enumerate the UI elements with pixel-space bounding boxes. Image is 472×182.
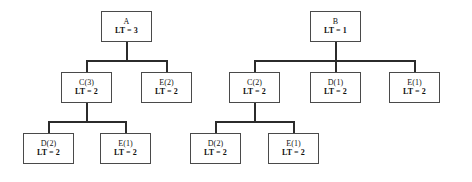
edge-b-e1-drop xyxy=(414,60,416,72)
edge-a-e2-drop xyxy=(166,60,168,72)
edge-a-root-bus xyxy=(86,60,167,62)
node-b-d2[interactable]: D(2)LT = 2 xyxy=(190,133,241,164)
edge-b-c2-bus xyxy=(215,121,294,123)
edge-a-c3-bus xyxy=(48,121,126,123)
edge-a-c3-stem xyxy=(86,103,88,122)
node-b-e1-level2[interactable]: E(1)LT = 2 xyxy=(268,133,319,164)
node-lt-value: LT = 1 xyxy=(324,27,347,36)
tree-diagram-canvas: ALT = 3C(3)LT = 2E(2)LT = 2D(2)LT = 2E(1… xyxy=(0,0,472,182)
edge-b-c2-stem xyxy=(254,103,256,122)
edge-a-root-stem xyxy=(126,42,128,61)
node-lt-value: LT = 2 xyxy=(75,88,98,97)
node-lt-value: LT = 2 xyxy=(37,149,60,158)
node-a-e1[interactable]: E(1)LT = 2 xyxy=(100,133,151,164)
node-b-d1[interactable]: D(1)LT = 2 xyxy=(310,72,361,103)
node-lt-value: LT = 2 xyxy=(403,88,426,97)
node-a-e2[interactable]: E(2)LT = 2 xyxy=(141,72,192,103)
node-lt-value: LT = 2 xyxy=(324,88,347,97)
edge-b-e1-bot-drop xyxy=(293,121,295,133)
node-lt-value: LT = 2 xyxy=(114,149,137,158)
edge-b-d2-drop xyxy=(215,121,217,133)
edge-a-c3-drop xyxy=(86,60,88,72)
edge-b-d1-drop xyxy=(335,60,337,72)
node-a-root[interactable]: ALT = 3 xyxy=(101,11,152,42)
node-b-e1-level1[interactable]: E(1)LT = 2 xyxy=(389,72,440,103)
edge-a-d2-drop xyxy=(48,121,50,133)
node-a-d2[interactable]: D(2)LT = 2 xyxy=(23,133,74,164)
edge-b-c2-drop xyxy=(254,60,256,72)
node-lt-value: LT = 2 xyxy=(243,88,266,97)
node-lt-value: LT = 2 xyxy=(282,149,305,158)
node-lt-value: LT = 2 xyxy=(204,149,227,158)
node-b-c2[interactable]: C(2)LT = 2 xyxy=(229,72,280,103)
node-a-c3[interactable]: C(3)LT = 2 xyxy=(61,72,112,103)
node-lt-value: LT = 3 xyxy=(115,27,138,36)
edge-b-root-stem xyxy=(335,42,337,61)
node-lt-value: LT = 2 xyxy=(155,88,178,97)
node-b-root[interactable]: BLT = 1 xyxy=(310,11,361,42)
edge-a-e1-drop xyxy=(125,121,127,133)
